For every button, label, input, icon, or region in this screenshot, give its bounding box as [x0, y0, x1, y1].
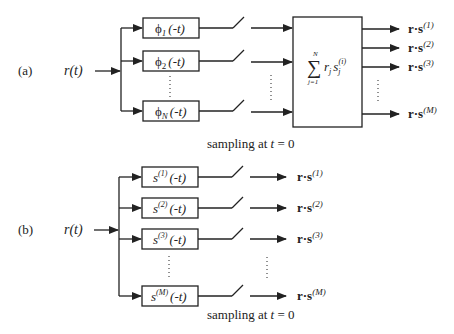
- part-a-combiner-box: N ∑ j=1 rjsj(i): [293, 17, 362, 127]
- switch-icon: [232, 197, 243, 208]
- switch-icon: [233, 17, 244, 28]
- part-b-filter-3: s(3)(-t) r·s(3): [119, 228, 323, 249]
- part-a-filter-1: ϕ1(-t): [121, 17, 292, 38]
- svg-text:s(2)(-t): s(2)(-t): [153, 200, 186, 216]
- switch-icon: [233, 100, 244, 111]
- part-a: (a) r(t) ϕ1(-t) ϕ2(-t): [18, 17, 437, 151]
- switch-icon: [233, 50, 244, 61]
- part-a-caption: sampling at t = 0: [207, 136, 295, 151]
- part-b-label: (b): [18, 222, 33, 237]
- output-label: r·s(3): [297, 230, 323, 246]
- svg-text:s(3)(-t): s(3)(-t): [153, 231, 186, 247]
- switch-icon: [232, 285, 243, 296]
- output-label: r·s(1): [297, 168, 323, 184]
- part-a-outputs: r·s(1) r·s(2) r·s(3) r·s(M): [362, 20, 437, 121]
- part-b-input-label: r(t): [64, 222, 83, 238]
- part-b-filter-2: s(2)(-t) r·s(2): [119, 197, 323, 218]
- output-label: r·s(1): [408, 20, 434, 36]
- svg-text:s(1)(-t): s(1)(-t): [153, 169, 186, 185]
- output-label: r·s(3): [408, 58, 434, 74]
- output-label: r·s(2): [297, 199, 323, 215]
- part-a-filter-2: ϕ2(-t): [121, 50, 292, 71]
- svg-text:ϕ2(-t): ϕ2(-t): [155, 54, 185, 71]
- part-b-filter-m: s(M)(-t) r·s(M): [119, 285, 326, 306]
- svg-text:j=1: j=1: [307, 78, 318, 86]
- switch-icon: [232, 166, 243, 177]
- output-label: r·s(M): [297, 287, 326, 303]
- part-b-caption: sampling at t = 0: [207, 307, 295, 322]
- part-b: (b) r(t) s(1)(-t) r·s(1) s(2)(-t) r·s(2): [18, 166, 326, 322]
- svg-text:ϕ1(-t): ϕ1(-t): [155, 21, 185, 38]
- svg-text:∑: ∑: [307, 56, 321, 79]
- part-b-filter-1: s(1)(-t) r·s(1): [119, 166, 323, 187]
- part-a-filter-n: ϕN(-t): [121, 100, 292, 121]
- switch-icon: [232, 228, 243, 239]
- part-a-label: (a): [18, 63, 32, 78]
- part-a-input-label: r(t): [64, 63, 83, 79]
- svg-text:ϕN(-t): ϕN(-t): [155, 104, 186, 121]
- output-label: r·s(2): [408, 39, 434, 55]
- output-label: r·s(M): [408, 105, 437, 121]
- diagram-canvas: (a) r(t) ϕ1(-t) ϕ2(-t): [0, 0, 454, 334]
